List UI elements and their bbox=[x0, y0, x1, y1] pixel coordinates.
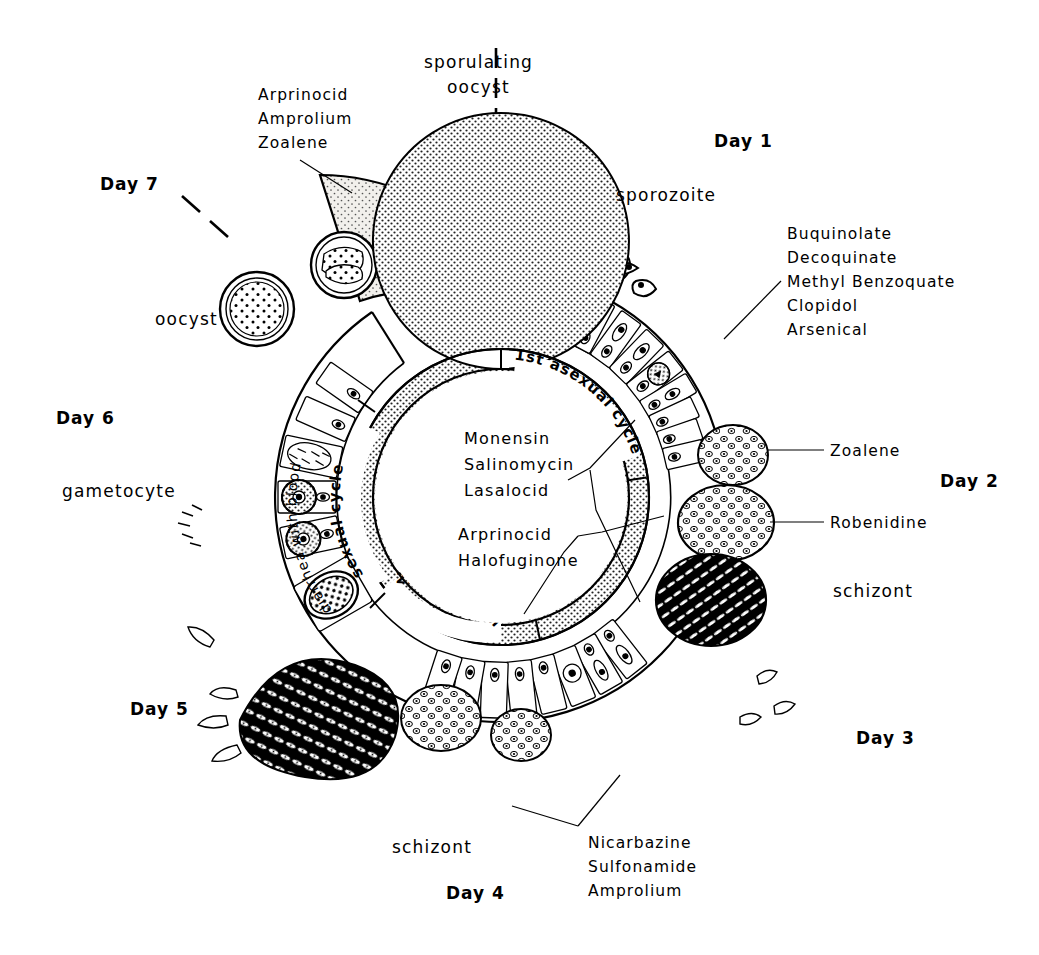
drug-line: Amprolium bbox=[588, 882, 683, 900]
drug-line: Zoalene bbox=[830, 442, 901, 460]
day-label-day3: Day 3 bbox=[856, 728, 915, 748]
center-drug-line: Arprinocid bbox=[458, 525, 552, 544]
drug-line: Clopidol bbox=[787, 297, 858, 315]
center-drug-line: Monensin bbox=[464, 429, 550, 448]
drug-line: Arprinocid bbox=[258, 86, 348, 104]
drug-line: Robenidine bbox=[830, 514, 928, 532]
drug-line: Decoquinate bbox=[787, 249, 897, 267]
day-label-day1: Day 1 bbox=[714, 131, 773, 151]
diagram-canvas: 1st asexual cycle sexual cycle 2nd asexu… bbox=[0, 0, 1039, 955]
day-label-day6: Day 6 bbox=[56, 408, 115, 428]
drug-line: Arsenical bbox=[787, 321, 868, 339]
stage-label-schizont-bottom: schizont bbox=[392, 837, 472, 857]
stage-label-sporulating-oocyst-line2: oocyst bbox=[447, 77, 510, 97]
stage-label-schizont-right: schizont bbox=[833, 581, 913, 601]
drug-line: Sulfonamide bbox=[588, 858, 697, 876]
drug-line: Zoalene bbox=[258, 134, 329, 152]
center-drug-line: Salinomycin bbox=[464, 455, 574, 474]
day-label-day7: Day 7 bbox=[100, 174, 159, 194]
stage-label-gametocyte: gametocyte bbox=[62, 481, 176, 501]
coccidiosis-life-cycle-svg: 1st asexual cycle sexual cycle 2nd asexu… bbox=[0, 0, 1039, 955]
day-label-day4: Day 4 bbox=[446, 883, 505, 903]
stage-label-oocyst: oocyst bbox=[155, 309, 218, 329]
drug-line: Nicarbazine bbox=[588, 834, 692, 852]
center-drug-line: Halofuginone bbox=[458, 551, 579, 570]
day-label-day5: Day 5 bbox=[130, 699, 189, 719]
drug-line: Methyl Benzoquate bbox=[787, 273, 955, 291]
center-drug-line: Lasalocid bbox=[464, 481, 549, 500]
drug-line: Amprolium bbox=[258, 110, 353, 128]
stage-label-sporozoite: sporozoite bbox=[616, 185, 716, 205]
day-label-day2: Day 2 bbox=[940, 471, 999, 491]
drug-line: Buquinolate bbox=[787, 225, 892, 243]
stage-label-sporulating-oocyst-line1: sporulating bbox=[424, 52, 533, 72]
